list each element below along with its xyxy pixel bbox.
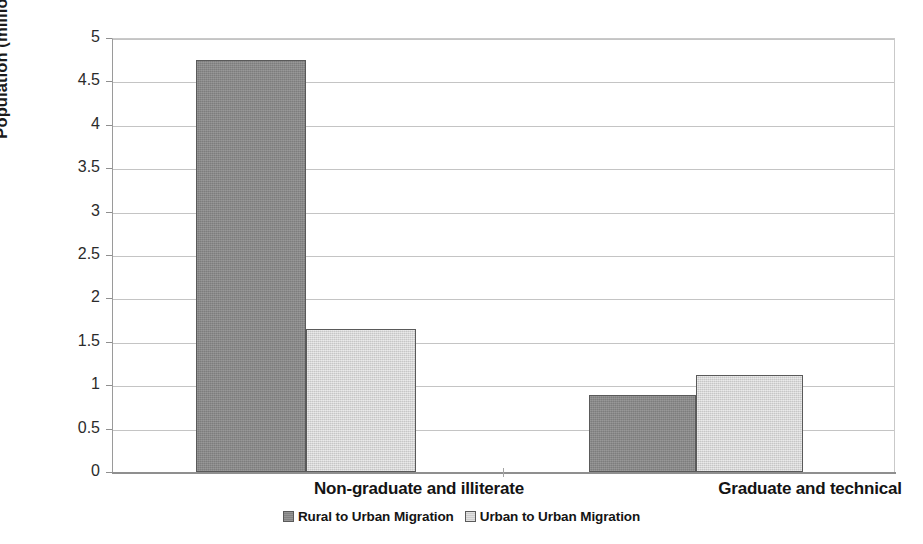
legend-label: Rural to Urban Migration (298, 509, 454, 524)
y-tick-label: 4.5 (78, 71, 100, 89)
bar-chart: Population (millions) 00.511.522.533.544… (0, 0, 923, 544)
legend-item[interactable]: Urban to Urban Migration (465, 509, 640, 524)
legend-swatch-icon (465, 511, 476, 522)
plot-area (112, 38, 895, 472)
y-tick-label: 5 (91, 28, 100, 46)
y-tick-label: 1 (91, 375, 100, 393)
bar (696, 375, 803, 472)
bar (196, 60, 306, 472)
y-tick-label: 4 (91, 115, 100, 133)
x-axis-line (112, 472, 896, 474)
legend-swatch-icon (283, 511, 294, 522)
y-axis-title: Population (millions) (0, 0, 11, 196)
gridline (113, 39, 894, 40)
y-tick-label: 2.5 (78, 245, 100, 263)
x-axis-category-label: Graduate and technical (610, 479, 923, 499)
x-axis-category-label: Non-graduate and illiterate (219, 479, 619, 499)
y-tick-label: 2 (91, 288, 100, 306)
y-tick-label: 3.5 (78, 158, 100, 176)
bar (589, 395, 696, 472)
chart-legend: Rural to Urban MigrationUrban to Urban M… (0, 509, 923, 524)
y-tick-label: 1.5 (78, 332, 100, 350)
legend-label: Urban to Urban Migration (480, 509, 640, 524)
y-tick-label: 0 (91, 462, 100, 480)
y-tick-label: 0.5 (78, 419, 100, 437)
y-tick-label: 3 (91, 202, 100, 220)
x-axis-separator-tick (503, 468, 504, 477)
legend-item[interactable]: Rural to Urban Migration (283, 509, 454, 524)
bar (306, 329, 416, 472)
